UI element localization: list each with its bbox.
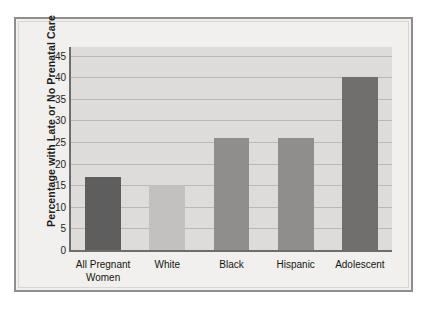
y-axis-tick-label: 20 (55, 158, 66, 169)
y-axis-tick-label: 15 (55, 180, 66, 191)
y-axis-tick-label: 40 (55, 72, 66, 83)
y-axis-tick-label: 5 (60, 223, 66, 234)
x-axis-tick-label: Adolescent (305, 259, 415, 272)
y-axis-tick-label: 25 (55, 137, 66, 148)
y-axis-tick-label: 0 (60, 245, 66, 256)
figure-root: Percentage with Late or No Prenatal Care… (0, 0, 427, 309)
bar-fill (278, 138, 314, 250)
bar-fill (342, 77, 378, 250)
bar-series (71, 47, 392, 250)
bar (278, 138, 314, 250)
bar-fill (85, 177, 121, 250)
y-axis-tick-label: 45 (55, 50, 66, 61)
bar (214, 138, 250, 250)
bar (149, 185, 185, 250)
bar-fill (149, 185, 185, 250)
bar (85, 177, 121, 250)
bar-chart: Percentage with Late or No Prenatal Care… (14, 17, 413, 292)
y-axis-tick-label: 35 (55, 93, 66, 104)
bar (342, 77, 378, 250)
plot-area: 051015202530354045 All Pregnant WomenWhi… (69, 47, 392, 252)
bar-fill (214, 138, 250, 250)
y-axis-tick-label: 10 (55, 201, 66, 212)
y-axis-tick-label: 30 (55, 115, 66, 126)
